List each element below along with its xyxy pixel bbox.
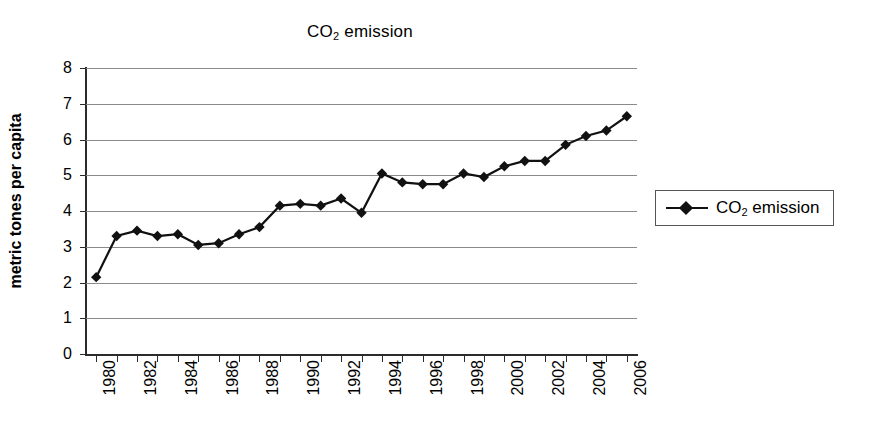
data-point-marker (132, 225, 142, 235)
data-point-marker (315, 200, 325, 210)
chart-title-subscript: 2 (333, 30, 339, 42)
x-tick-label: 1986 (225, 360, 241, 396)
data-point-marker (213, 238, 223, 248)
chart-title-suffix: emission (339, 22, 413, 41)
y-tick-label: 0 (38, 346, 72, 362)
y-axis-title: metric tones per capita (7, 61, 25, 341)
x-axis-tick-labels: 1980198219841986198819901992199419961998… (86, 360, 646, 446)
legend-marker-swatch (666, 201, 708, 215)
x-tick-label: 2006 (633, 360, 649, 396)
y-axis-tick-labels: 876543210 (30, 0, 72, 446)
x-tick-label: 2000 (510, 360, 526, 396)
x-tick-label: 1998 (470, 360, 486, 396)
data-point-marker (520, 156, 530, 166)
series-markers (91, 111, 632, 282)
legend-label-subscript: 2 (742, 206, 748, 218)
chart-title-prefix: CO (307, 22, 333, 41)
data-point-marker (499, 161, 509, 171)
y-tick-mark (80, 354, 86, 355)
y-tick-label: 4 (38, 203, 72, 219)
y-tick-label: 2 (38, 275, 72, 291)
x-tick-label: 2002 (551, 360, 567, 396)
x-tick-label: 1990 (306, 360, 322, 396)
x-tick-label: 1982 (143, 360, 159, 396)
legend: CO2 emission (655, 190, 834, 226)
y-tick-label: 8 (38, 60, 72, 76)
x-tick-label: 1984 (184, 360, 200, 396)
legend-label-suffix: emission (748, 198, 820, 217)
data-point-marker (152, 231, 162, 241)
data-point-marker (397, 177, 407, 187)
data-point-marker (458, 168, 468, 178)
data-point-marker (295, 199, 305, 209)
data-point-marker (377, 168, 387, 178)
y-tick-label: 1 (38, 310, 72, 326)
plot-area (86, 68, 637, 354)
data-point-marker (418, 179, 428, 189)
legend-label-prefix: CO (716, 198, 742, 217)
data-point-marker (581, 131, 591, 141)
data-point-marker (438, 179, 448, 189)
x-tick-label: 1980 (102, 360, 118, 396)
y-axis-title-wrap: metric tones per capita (2, 60, 30, 360)
data-point-marker (173, 229, 183, 239)
y-tick-label: 5 (38, 167, 72, 183)
x-tick-label: 1992 (347, 360, 363, 396)
chart-container: CO2 emission metric tones per capita 876… (0, 0, 880, 446)
series-line (96, 116, 627, 277)
data-point-marker (111, 231, 121, 241)
data-point-marker (234, 229, 244, 239)
data-point-marker (193, 240, 203, 250)
x-tick-label: 1994 (388, 360, 404, 396)
y-tick-label: 3 (38, 239, 72, 255)
chart-title: CO2 emission (180, 22, 540, 42)
data-point-marker (91, 272, 101, 282)
data-point-marker (479, 172, 489, 182)
y-tick-label: 6 (38, 132, 72, 148)
data-series-co2-emission (86, 68, 637, 354)
diamond-marker-icon (679, 201, 693, 215)
y-tick-label: 7 (38, 96, 72, 112)
x-tick-label: 2004 (592, 360, 608, 396)
x-tick-label: 1996 (429, 360, 445, 396)
x-tick-label: 1988 (265, 360, 281, 396)
legend-label: CO2 emission (716, 198, 819, 218)
